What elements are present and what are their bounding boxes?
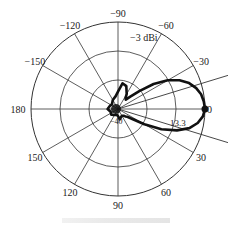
- angle-label: 30: [196, 152, 206, 163]
- grid-spoke: [118, 66, 193, 110]
- pattern-trace: [108, 80, 209, 130]
- angle-label: 150: [27, 152, 42, 163]
- angle-label: −120: [60, 20, 81, 31]
- polar-radiation-chart: −90−120−60−150−30180150301206090 −3 dBi …: [0, 0, 244, 228]
- figure-caption: [62, 218, 170, 223]
- unit-label: −3 dBi: [130, 32, 158, 43]
- angle-label: 180: [11, 104, 26, 115]
- grid-spoke: [75, 34, 119, 109]
- grid-spoke: [43, 109, 118, 153]
- angle-label: 120: [63, 187, 78, 198]
- max-label: 0: [207, 104, 212, 115]
- angle-label: 60: [161, 187, 171, 198]
- radial-label-minus-40: −40: [110, 117, 123, 126]
- angle-label: −90: [110, 8, 126, 19]
- angle-label: −60: [158, 20, 174, 31]
- grid-spoke: [43, 66, 118, 110]
- angle-label: −150: [25, 56, 46, 67]
- angle-label: 90: [113, 200, 123, 211]
- center-blob: [111, 104, 121, 114]
- radial-label-13-3: 13.3: [170, 118, 186, 128]
- angle-label: −30: [193, 56, 209, 67]
